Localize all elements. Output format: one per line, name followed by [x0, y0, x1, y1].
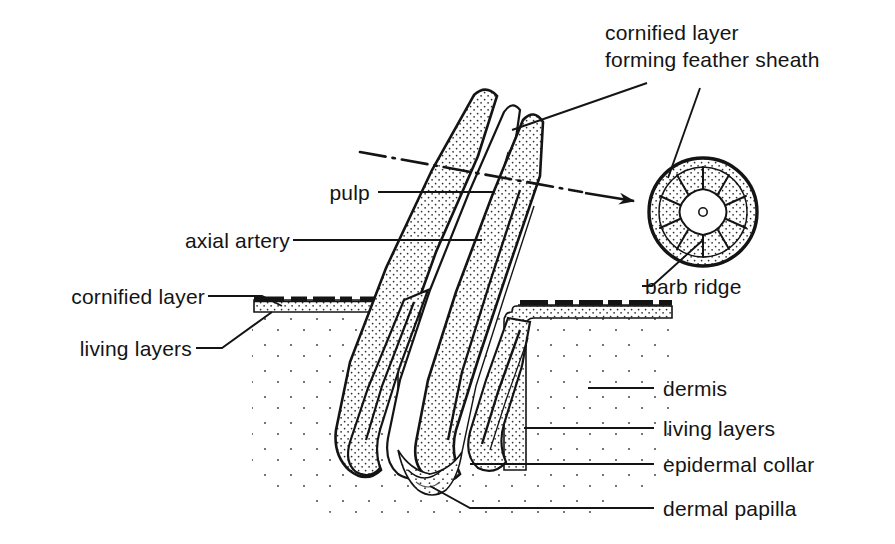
label-epidermal-collar: epidermal collar: [663, 452, 814, 477]
section-arrow: [585, 193, 634, 201]
label-living-layers-left: living layers: [20, 336, 192, 361]
label-barb-ridge: barb ridge: [645, 274, 742, 299]
feather-follicle-figure: cornified layer forming feather sheath p…: [0, 0, 895, 544]
cross-section-inset: [649, 158, 757, 266]
axial-artery-dot: [699, 208, 707, 216]
leader-sheath-tip: [512, 83, 647, 130]
label-dermis: dermis: [663, 376, 727, 401]
label-pulp: pulp: [240, 180, 370, 205]
label-feather-sheath-line1: cornified layer: [605, 20, 739, 45]
label-axial-artery: axial artery: [145, 228, 290, 253]
label-cornified-layer-left: cornified layer: [20, 284, 205, 309]
label-dermal-papilla: dermal papilla: [663, 496, 797, 521]
label-feather-sheath-line2: forming feather sheath: [605, 47, 820, 72]
label-living-layers-right: living layers: [663, 416, 775, 441]
